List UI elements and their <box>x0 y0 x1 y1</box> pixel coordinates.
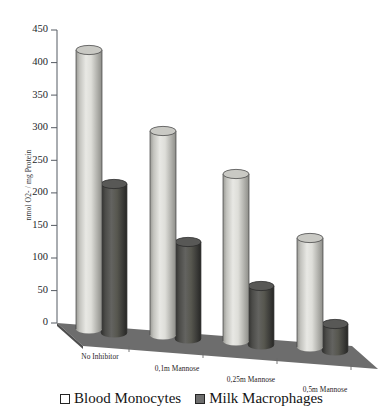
legend-label-milk-macrophages: Milk Macrophages <box>209 391 323 406</box>
x-tick-label-1: 0,1m Mannose <box>155 364 200 373</box>
bar-blood-monocytes-1[interactable] <box>76 45 102 333</box>
bar-milk-macrophages-1[interactable] <box>101 179 127 337</box>
bar-blood-monocytes-3[interactable] <box>223 169 249 345</box>
legend-item-blood-monocytes[interactable]: Blood Monocytes <box>60 391 181 406</box>
y-tick-label-150: 150 <box>32 219 48 230</box>
bar-milk-macrophages-3[interactable] <box>248 281 274 349</box>
legend-label-blood-monocytes: Blood Monocytes <box>74 391 181 406</box>
y-axis-title: nmol O2- / mg Protein <box>24 149 33 220</box>
y-tick-label-50: 50 <box>38 284 49 295</box>
y-tick-label-300: 300 <box>32 121 48 132</box>
legend-swatch-blood-monocytes <box>60 394 70 404</box>
y-tick-label-200: 200 <box>32 186 48 197</box>
chart-container: 450 400 350 300 250 200 150 100 50 0 nmo… <box>0 0 383 417</box>
bar-blood-monocytes-2[interactable] <box>150 126 176 339</box>
y-axis-ticks <box>51 30 57 323</box>
bar-milk-macrophages-4[interactable] <box>322 319 348 355</box>
bar-group-025m-mannose <box>223 169 274 349</box>
legend-item-milk-macrophages[interactable]: Milk Macrophages <box>195 391 323 406</box>
bar-group-no-inhibitor <box>76 45 127 337</box>
bar-milk-macrophages-2[interactable] <box>175 237 201 343</box>
bar-chart-plot: 450 400 350 300 250 200 150 100 50 0 nmo… <box>0 0 383 417</box>
bar-group-01m-mannose <box>150 126 201 343</box>
y-tick-label-250: 250 <box>32 154 48 165</box>
y-tick-label-450: 450 <box>32 23 48 34</box>
y-axis: 450 400 350 300 250 200 150 100 50 0 nmo… <box>24 23 57 327</box>
x-tick-label-2: 0,25m Mannose <box>227 375 276 384</box>
y-tick-label-100: 100 <box>32 251 48 262</box>
chart-legend: Blood Monocytes Milk Macrophages <box>0 391 383 406</box>
y-tick-label-400: 400 <box>32 56 48 67</box>
y-tick-label-0: 0 <box>43 316 48 327</box>
bar-blood-monocytes-4[interactable] <box>297 233 323 351</box>
y-tick-label-350: 350 <box>32 89 48 100</box>
legend-swatch-milk-macrophages <box>195 394 205 404</box>
bar-group-05m-mannose <box>297 233 348 355</box>
x-tick-label-0: No Inhibitor <box>81 352 119 361</box>
